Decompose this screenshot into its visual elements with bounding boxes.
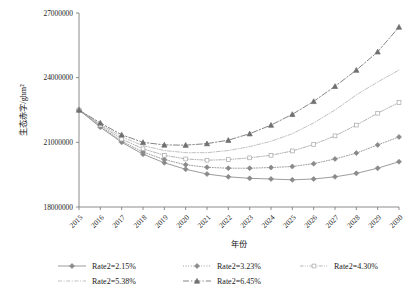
data-point-marker (376, 111, 380, 115)
x-axis-tick-label: 2028 (345, 213, 362, 230)
data-point-marker (290, 149, 294, 153)
x-axis-tick-label: 2027 (324, 213, 341, 230)
legend-label: Rate2=2.15% (92, 262, 136, 271)
data-point-marker (269, 165, 274, 170)
chart-figure: 18000000210000002400000027000000 2015201… (0, 0, 413, 298)
data-point-marker (333, 134, 337, 138)
x-axis-tick-label: 2024 (260, 213, 277, 230)
series-1 (77, 108, 402, 183)
data-point-marker (312, 143, 316, 147)
legend-item-3[interactable]: Rate2=4.30% (300, 262, 378, 271)
data-point-marker (354, 151, 359, 156)
y-axis-tick-label: 18000000 (43, 203, 73, 212)
y-axis-tick-label: 24000000 (43, 73, 73, 82)
data-point-marker (397, 134, 402, 139)
x-axis-tick-label: 2020 (174, 213, 191, 230)
data-point-marker (333, 174, 338, 179)
y-axis-tick-label: 21000000 (43, 138, 73, 147)
data-point-marker (396, 24, 401, 29)
data-point-marker (269, 153, 273, 157)
legend-label: Rate2=6.45% (217, 277, 261, 286)
x-axis-tick-label: 2026 (302, 213, 319, 230)
x-axis-tick-label: 2016 (89, 213, 106, 230)
legend-item-2[interactable]: Rate2=3.23% (183, 262, 261, 271)
data-point-marker (162, 153, 166, 157)
x-axis-tick-label: 2019 (153, 213, 170, 230)
data-point-marker (332, 84, 337, 89)
data-point-marker (226, 166, 231, 171)
legend-label: Rate2=3.23% (217, 262, 261, 271)
data-point-marker (290, 164, 295, 169)
data-point-marker (205, 165, 210, 170)
series-group (76, 24, 401, 182)
data-point-marker (375, 166, 380, 171)
data-point-marker (290, 112, 295, 117)
legend-label: Rate2=4.30% (334, 262, 378, 271)
series-5 (76, 24, 401, 147)
chart-legend: Rate2=2.15%Rate2=3.23%Rate2=4.30%Rate2=5… (58, 262, 378, 286)
data-point-marker (269, 176, 274, 181)
legend-item-5[interactable]: Rate2=6.45% (183, 277, 261, 286)
data-point-marker (311, 176, 316, 181)
x-axis-tick-label: 2018 (132, 213, 149, 230)
data-point-marker (247, 166, 252, 171)
series-line (79, 110, 399, 180)
data-point-marker (141, 147, 145, 151)
legend-item-1[interactable]: Rate2=2.15% (58, 262, 136, 271)
data-point-marker (226, 174, 231, 179)
data-point-marker (162, 157, 167, 162)
data-point-marker (311, 99, 316, 104)
data-point-marker (205, 172, 210, 177)
data-point-marker (268, 122, 273, 127)
x-axis-tick-label: 2021 (196, 213, 213, 230)
data-point-marker (226, 158, 230, 162)
data-point-marker (311, 161, 316, 166)
series-3 (77, 101, 401, 163)
data-point-marker (354, 171, 359, 176)
x-axis-tick-label: 2015 (68, 213, 85, 230)
data-point-marker (333, 156, 338, 161)
series-line (79, 102, 399, 160)
data-point-marker (205, 158, 209, 162)
data-point-marker (354, 123, 358, 127)
legend-swatch-marker (195, 264, 200, 269)
x-axis-tick-label: 2023 (238, 213, 255, 230)
legend-item-4[interactable]: Rate2=5.38% (58, 277, 136, 286)
x-axis-tick-label: 2030 (388, 213, 405, 230)
y-axis-tick-group: 18000000210000002400000027000000 (43, 9, 79, 212)
x-axis-tick-group: 2015201620172018201920202021202220232024… (68, 207, 405, 230)
y-axis-tick-label: 27000000 (43, 9, 73, 18)
series-2 (77, 108, 402, 171)
data-point-marker (183, 162, 188, 167)
x-axis-tick-label: 2029 (366, 213, 383, 230)
y-axis-title: 生态赤字/ghm² (18, 84, 28, 136)
data-point-marker (247, 176, 252, 181)
data-point-marker (375, 142, 380, 147)
data-point-marker (397, 159, 402, 164)
legend-swatch-marker (70, 264, 75, 269)
x-axis-tick-label: 2025 (281, 213, 298, 230)
x-axis-tick-label: 2022 (217, 213, 234, 230)
series-line (79, 70, 399, 153)
data-point-marker (290, 177, 295, 182)
data-point-marker (119, 132, 124, 137)
data-point-marker (397, 101, 401, 105)
x-axis-tick-label: 2017 (110, 213, 127, 230)
data-point-marker (184, 157, 188, 161)
line-chart: 18000000210000002400000027000000 2015201… (0, 0, 413, 298)
legend-label: Rate2=5.38% (92, 277, 136, 286)
series-4 (79, 70, 399, 153)
data-point-marker (248, 156, 252, 160)
legend-swatch-marker (312, 264, 316, 268)
x-axis-title: 年份 (231, 239, 247, 249)
data-point-marker (247, 131, 252, 136)
